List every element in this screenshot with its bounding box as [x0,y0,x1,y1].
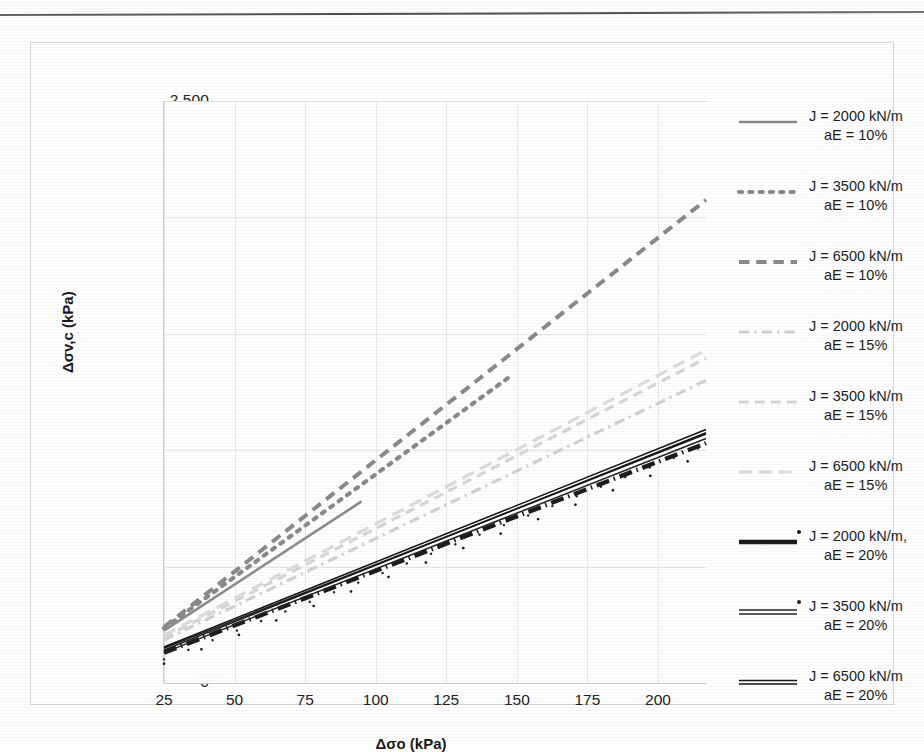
series-line [164,434,706,659]
legend-line-swatch [739,675,801,689]
legend-label-line2: aE = 20% [809,616,924,635]
legend-label-line2: aE = 20% [809,546,924,565]
legend-line-swatch [739,185,801,199]
chart-legend: J = 2000 kN/maE = 10%J = 3500 kN/maE = 1… [731,101,924,731]
legend-label-line1: J = 2000 kN/m, [809,528,907,544]
legend-dot-marker [797,600,801,604]
legend-line-swatch [739,535,801,549]
scan-artifact-line [0,11,924,16]
legend-label-line1: J = 6500 kN/m [809,248,903,264]
series-line [164,200,706,627]
legend-label: J = 6500 kN/maE = 20% [809,667,924,705]
series-line [164,430,706,651]
legend-item[interactable]: J = 6500 kN/maE = 15% [731,451,924,521]
series-line [164,358,706,637]
series-lines [164,101,706,683]
legend-label-line1: J = 3500 kN/m [809,388,903,404]
legend-label-line2: aE = 15% [809,406,924,425]
legend-label-line2: aE = 10% [809,266,924,285]
plot-area [164,101,706,683]
legend-label-line2: aE = 10% [809,196,924,215]
legend-label: J = 2000 kN/maE = 15% [809,317,924,355]
legend-label: J = 3500 kN/maE = 10% [809,177,924,215]
legend-label: J = 6500 kN/maE = 15% [809,457,924,495]
legend-label: J = 3500 kN/maE = 15% [809,387,924,425]
legend-label-line2: aE = 20% [809,686,924,705]
legend-line-swatch [739,395,801,409]
legend-item[interactable]: J = 6500 kN/maE = 10% [731,241,924,311]
chart-frame: 05001,0001,5002,0002,500 255075100125150… [30,42,894,705]
y-axis-title: Δσv,c (kPa) [59,291,76,373]
legend-item[interactable]: J = 2000 kN/m,aE = 20% [731,521,924,591]
legend-label: J = 6500 kN/maE = 10% [809,247,924,285]
legend-label: J = 2000 kN/maE = 10% [809,107,924,145]
legend-label-line1: J = 2000 kN/m [809,318,903,334]
legend-label-line1: J = 3500 kN/m [809,178,903,194]
x-tick-label: 125 [411,691,481,709]
x-axis-title: Δσo (kPa) [31,735,791,752]
x-tick-label: 150 [482,691,552,709]
legend-line-swatch [739,325,801,339]
legend-label: J = 2000 kN/m,aE = 20% [809,527,924,565]
legend-line-swatch [739,255,801,269]
legend-line-swatch [739,465,801,479]
legend-item[interactable]: J = 3500 kN/maE = 20% [731,591,924,661]
x-tick-label: 100 [341,691,411,709]
legend-line-swatch [739,605,801,619]
series-line [164,376,511,629]
x-tick-label: 25 [129,691,199,709]
legend-dot-marker [797,530,801,534]
legend-item[interactable]: J = 3500 kN/maE = 10% [731,171,924,241]
series-line [164,380,706,640]
x-tick-label: 200 [623,691,693,709]
x-axis-line [164,683,706,684]
legend-item[interactable]: J = 3500 kN/maE = 15% [731,381,924,451]
legend-label-line1: J = 3500 kN/m [809,598,903,614]
legend-item[interactable]: J = 2000 kN/maE = 15% [731,311,924,381]
legend-item[interactable]: J = 2000 kN/maE = 10% [731,101,924,171]
legend-line-swatch [739,115,801,129]
legend-label-line2: aE = 10% [809,126,924,145]
legend-label-line1: J = 6500 kN/m [809,458,903,474]
series-line [164,350,706,635]
legend-label: J = 3500 kN/maE = 20% [809,597,924,635]
legend-label-line1: J = 2000 kN/m [809,108,903,124]
legend-item[interactable]: J = 6500 kN/maE = 20% [731,661,924,731]
x-tick-label: 175 [552,691,622,709]
x-tick-label: 50 [200,691,270,709]
legend-label-line2: aE = 15% [809,476,924,495]
x-tick-label: 75 [270,691,340,709]
legend-label-line2: aE = 15% [809,336,924,355]
legend-label-line1: J = 6500 kN/m [809,668,903,684]
